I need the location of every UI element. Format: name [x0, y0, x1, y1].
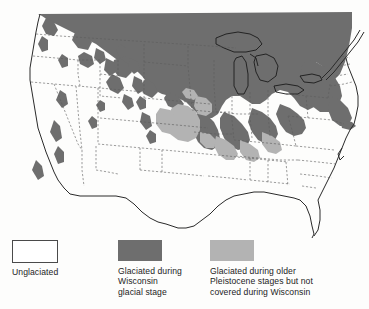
legend-swatch-older-pleistocene — [210, 240, 254, 261]
legend-label-unglaciated: Unglaciated — [12, 267, 58, 277]
legend-swatch-unglaciated — [12, 240, 58, 263]
legend-entry-unglaciated: Unglaciated — [12, 240, 58, 277]
map-legend: Unglaciated Glaciated during Wisconsin g… — [0, 240, 369, 309]
legend-entry-wisconsin: Glaciated during Wisconsin glacial stage — [118, 240, 182, 297]
legend-entry-older-pleistocene: Glaciated during older Pleistocene stage… — [210, 240, 313, 297]
legend-label-wisconsin: Glaciated during Wisconsin glacial stage — [118, 266, 182, 297]
map-figure — [0, 0, 369, 238]
figure-page: Unglaciated Glaciated during Wisconsin g… — [0, 0, 369, 309]
legend-label-older-pleistocene: Glaciated during older Pleistocene stage… — [210, 266, 313, 297]
north-america-glaciation-map — [0, 0, 369, 238]
legend-swatch-wisconsin — [118, 240, 162, 261]
